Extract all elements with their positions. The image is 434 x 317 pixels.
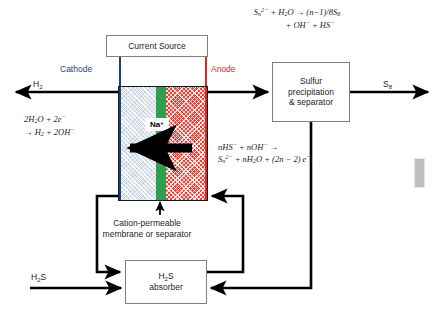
separator-recycle-line	[211, 122, 311, 288]
scrollbar-artifact[interactable]	[414, 158, 425, 188]
absorber-to-anolyte-line	[207, 196, 243, 272]
catholyte-recycle-line	[97, 196, 120, 272]
diagram-canvas: Sn2− + H2O → (n−1)/8S8 + OH− + HS− 2H2O …	[0, 0, 434, 317]
flow-arrows-layer	[0, 0, 434, 317]
